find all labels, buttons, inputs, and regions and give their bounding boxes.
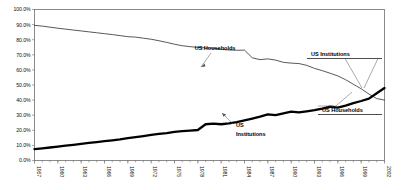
y-tick-label: 80.0% bbox=[16, 37, 31, 43]
x-tick-label: 1978 bbox=[199, 166, 205, 177]
chart-container: 0.0%10.0%20.0%30.0%40.0%50.0%60.0%70.0%8… bbox=[0, 0, 401, 190]
y-tick-label: 100.0% bbox=[14, 6, 31, 12]
annotation-label-us-institutions-callout: US Institutions bbox=[311, 51, 350, 57]
y-tick-label: 20.0% bbox=[16, 127, 31, 133]
x-tick-label: 1999 bbox=[362, 166, 368, 177]
x-tick-label: 1966 bbox=[106, 166, 112, 177]
y-tick-label: 90.0% bbox=[16, 22, 31, 28]
x-tick-label: 1993 bbox=[316, 166, 322, 177]
x-tick-label: 1984 bbox=[246, 166, 252, 177]
x-tick-label: 2002 bbox=[386, 166, 392, 177]
y-tick-label: 40.0% bbox=[16, 97, 31, 103]
annotation-label-us-households-callout: US Households bbox=[322, 107, 363, 113]
x-tick-label: 1969 bbox=[129, 166, 135, 177]
annotation-label-us-institutions-inline-line1: US bbox=[236, 122, 244, 128]
x-tick-label: 1963 bbox=[82, 166, 88, 177]
annotation-label-us-institutions-inline-line2: Institutions bbox=[236, 131, 266, 137]
equity-ownership-line-chart: 0.0%10.0%20.0%30.0%40.0%50.0%60.0%70.0%8… bbox=[0, 0, 401, 190]
annotation-label-us-households-inline: US Households bbox=[195, 45, 236, 51]
x-tick-label: 1975 bbox=[176, 166, 182, 177]
x-tick-label: 1957 bbox=[36, 166, 42, 177]
x-tick-label: 1996 bbox=[339, 166, 345, 177]
x-tick-label: 1990 bbox=[292, 166, 298, 177]
y-tick-label: 50.0% bbox=[16, 82, 31, 88]
x-tick-label: 1972 bbox=[152, 166, 158, 177]
y-tick-label: 30.0% bbox=[16, 112, 31, 118]
x-tick-label: 1960 bbox=[59, 166, 65, 177]
x-tick-label: 1987 bbox=[269, 166, 275, 177]
y-tick-label: 0.0% bbox=[19, 157, 31, 163]
y-tick-label: 10.0% bbox=[16, 142, 31, 148]
y-tick-label: 60.0% bbox=[16, 67, 31, 73]
x-tick-label: 1981 bbox=[222, 166, 228, 177]
y-tick-label: 70.0% bbox=[16, 52, 31, 58]
